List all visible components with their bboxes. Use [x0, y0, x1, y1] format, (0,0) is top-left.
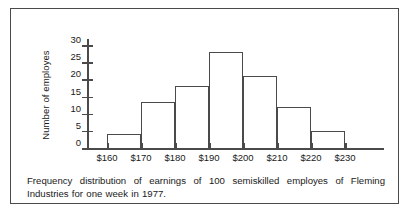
- bar: [277, 107, 311, 148]
- x-tick-label: $200: [232, 152, 253, 163]
- bar: [243, 76, 277, 148]
- chart-plot-area: Number of employes 0 5 10 15 20 25 30: [11, 9, 400, 159]
- figure-caption: Frequency distribution of earnings of 10…: [27, 175, 385, 200]
- bar: [311, 131, 345, 148]
- bar: [175, 86, 209, 148]
- figure-container: Number of employes 0 5 10 15 20 25 30: [0, 0, 413, 214]
- bar: [209, 52, 243, 148]
- figure-frame: Number of employes 0 5 10 15 20 25 30: [10, 8, 399, 204]
- x-tick-label: $190: [198, 152, 219, 163]
- histogram-bars: [11, 9, 400, 159]
- x-tick-label: $220: [300, 152, 321, 163]
- bar: [107, 134, 141, 148]
- x-tick-label: $180: [164, 152, 185, 163]
- x-tick-label: $160: [96, 152, 117, 163]
- x-tick-label: $170: [130, 152, 151, 163]
- x-tick-label: $210: [266, 152, 287, 163]
- x-tick-label: $230: [334, 152, 355, 163]
- bar: [141, 102, 175, 148]
